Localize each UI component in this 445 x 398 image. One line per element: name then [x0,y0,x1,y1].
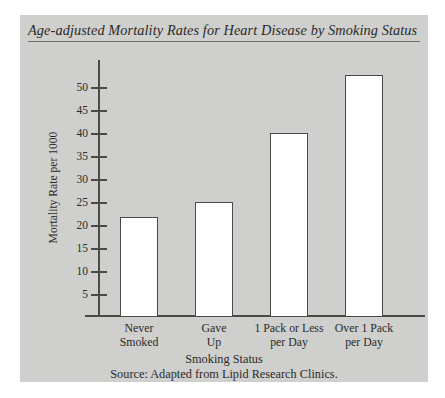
y-tick-label: 10 [66,266,88,277]
y-tick-mark [91,110,107,112]
x-category-label-one-pack-or-less: 1 Pack or Less per Day [248,321,330,349]
y-tick-mark [91,248,107,250]
y-tick-label: 25 [66,197,88,208]
x-category-label-never-smoked: Never Smoked [104,321,174,349]
x-category-label-line: Gave [179,321,249,335]
x-axis-title: Smoking Status [20,352,428,367]
x-category-label-line: 1 Pack or Less [248,321,330,335]
y-tick-label: 30 [66,174,88,185]
y-axis-title: Mortality Rate per 1000 [47,103,60,273]
y-tick-mark [91,133,107,135]
y-tick-label-wrap: 35 [62,151,88,162]
y-tick-label: 35 [66,151,88,162]
y-tick-label-wrap: 50 [62,82,88,93]
x-category-label-gave-up: Gave Up [179,321,249,349]
bar-one-pack-or-less [270,133,308,317]
y-tick-label-wrap: 20 [62,220,88,231]
source-note: Source: Adapted from Lipid Research Clin… [20,367,428,382]
y-tick-mark [91,225,107,227]
y-tick-label: 50 [66,82,88,93]
x-category-label-line: Over 1 Pack [325,321,403,335]
y-tick-mark [91,156,107,158]
plot-area: 5 10 15 20 25 30 35 40 4 [20,15,428,382]
x-category-label-line: per Day [248,335,330,349]
chart-figure: Age-adjusted Mortality Rates for Heart D… [20,15,428,382]
y-tick-label-wrap: 30 [62,174,88,185]
y-tick-label-wrap: 25 [62,197,88,208]
y-tick-label-wrap: 40 [62,128,88,139]
y-tick-mark [91,294,107,296]
bar-never-smoked [120,217,158,317]
y-tick-mark [91,271,107,273]
y-tick-label: 5 [66,289,88,300]
x-category-label-line: per Day [325,335,403,349]
x-category-label-line: Up [179,335,249,349]
y-tick-mark [91,179,107,181]
bar-gave-up [195,202,233,317]
y-tick-mark [91,87,107,89]
y-tick-mark [91,202,107,204]
y-tick-label: 20 [66,220,88,231]
y-tick-label-wrap: 15 [62,243,88,254]
y-tick-label-wrap: 10 [62,266,88,277]
x-category-label-line: Never [104,321,174,335]
y-tick-label: 45 [66,105,88,116]
y-tick-label-wrap: 45 [62,105,88,116]
y-tick-label: 15 [66,243,88,254]
x-category-label-over-one-pack: Over 1 Pack per Day [325,321,403,349]
y-tick-label: 40 [66,128,88,139]
y-tick-label-wrap: 5 [62,289,88,300]
y-axis-line [98,60,100,317]
x-category-label-line: Smoked [104,335,174,349]
bar-over-one-pack [345,75,383,317]
